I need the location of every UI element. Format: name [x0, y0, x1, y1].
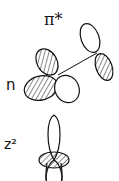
- z2-orbital: [39, 115, 69, 181]
- pi-star-label: π*: [44, 10, 63, 29]
- orbital-diagram: π* n z²: [0, 0, 119, 181]
- n-label: n: [6, 76, 16, 94]
- pi-star-orbital: [76, 21, 116, 83]
- n-orbital: [21, 45, 83, 107]
- bond-line: [58, 53, 97, 75]
- z2-label: z²: [4, 136, 17, 152]
